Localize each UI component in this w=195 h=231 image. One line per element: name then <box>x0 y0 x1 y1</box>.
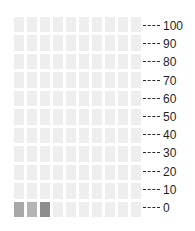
waffle-cell-empty <box>53 183 63 198</box>
waffle-cell-empty <box>92 54 102 69</box>
waffle-cell-empty <box>14 183 24 198</box>
waffle-cell-empty <box>131 91 141 106</box>
axis-tick-label: 0 <box>163 202 170 214</box>
waffle-cell-empty <box>105 202 115 217</box>
waffle-cell-empty <box>27 54 37 69</box>
waffle-cell-empty <box>66 183 76 198</box>
waffle-cell-empty <box>105 128 115 143</box>
waffle-cell-empty <box>118 54 128 69</box>
waffle-cell-empty <box>27 109 37 124</box>
waffle-cell-empty <box>92 35 102 50</box>
waffle-cell-empty <box>53 202 63 217</box>
waffle-cell-empty <box>118 165 128 180</box>
waffle-cell-empty <box>105 72 115 87</box>
waffle-cell-empty <box>131 202 141 217</box>
waffle-cell-empty <box>66 146 76 161</box>
waffle-cell-empty <box>40 35 50 50</box>
waffle-cell-empty <box>105 165 115 180</box>
waffle-cell-filled <box>40 202 50 217</box>
waffle-cell-empty <box>79 35 89 50</box>
waffle-cell-empty <box>53 35 63 50</box>
waffle-cell-empty <box>27 17 37 32</box>
waffle-cell-empty <box>79 165 89 180</box>
waffle-cell-empty <box>118 128 128 143</box>
waffle-cell-empty <box>27 165 37 180</box>
waffle-cell-empty <box>118 146 128 161</box>
axis-tick-label: 30 <box>163 147 176 159</box>
waffle-cell-empty <box>66 202 76 217</box>
waffle-cell-empty <box>105 17 115 32</box>
tick-dash-icon <box>143 25 160 27</box>
waffle-cell-empty <box>53 165 63 180</box>
axis-tick: 0 <box>143 201 170 215</box>
waffle-cell-empty <box>40 72 50 87</box>
waffle-cell-empty <box>53 128 63 143</box>
axis-tick-label: 100 <box>163 20 183 32</box>
waffle-cell-empty <box>53 72 63 87</box>
waffle-cell-filled <box>27 202 37 217</box>
waffle-cell-empty <box>79 72 89 87</box>
axis-tick-label: 80 <box>163 56 176 68</box>
waffle-cell-empty <box>53 54 63 69</box>
axis-tick-label: 90 <box>163 38 176 50</box>
waffle-cell-empty <box>66 54 76 69</box>
waffle-cell-empty <box>92 109 102 124</box>
waffle-cell-empty <box>14 54 24 69</box>
axis-tick: 10 <box>143 183 176 197</box>
waffle-cell-empty <box>79 146 89 161</box>
axis-tick: 40 <box>143 128 176 142</box>
waffle-cell-empty <box>27 128 37 143</box>
waffle-cell-empty <box>40 91 50 106</box>
waffle-cell-empty <box>27 183 37 198</box>
tick-dash-icon <box>143 43 160 45</box>
axis-tick-label: 10 <box>163 184 176 196</box>
waffle-cell-empty <box>118 109 128 124</box>
waffle-cell-empty <box>79 202 89 217</box>
waffle-cell-empty <box>118 202 128 217</box>
waffle-cell-empty <box>118 17 128 32</box>
waffle-cell-empty <box>105 109 115 124</box>
waffle-cell-empty <box>118 72 128 87</box>
tick-dash-icon <box>143 80 160 82</box>
waffle-cell-empty <box>105 54 115 69</box>
waffle-cell-empty <box>118 91 128 106</box>
waffle-cell-empty <box>53 17 63 32</box>
tick-dash-icon <box>143 207 160 209</box>
waffle-cell-empty <box>92 17 102 32</box>
waffle-cell-empty <box>40 183 50 198</box>
y-axis: 1009080706050403020100 <box>143 17 195 217</box>
waffle-cell-empty <box>131 35 141 50</box>
waffle-cell-empty <box>92 202 102 217</box>
waffle-cell-empty <box>131 109 141 124</box>
waffle-cell-empty <box>14 109 24 124</box>
waffle-cell-empty <box>79 54 89 69</box>
waffle-cell-filled <box>14 202 24 217</box>
waffle-cell-empty <box>92 183 102 198</box>
waffle-grid <box>14 17 141 217</box>
tick-dash-icon <box>143 61 160 63</box>
waffle-cell-empty <box>131 54 141 69</box>
waffle-cell-empty <box>92 146 102 161</box>
waffle-cell-empty <box>79 91 89 106</box>
axis-tick: 80 <box>143 55 176 69</box>
waffle-cell-empty <box>40 165 50 180</box>
waffle-cell-empty <box>92 128 102 143</box>
waffle-cell-empty <box>66 91 76 106</box>
axis-tick: 50 <box>143 110 176 124</box>
waffle-cell-empty <box>105 35 115 50</box>
waffle-cell-empty <box>66 72 76 87</box>
waffle-cell-empty <box>66 17 76 32</box>
waffle-cell-empty <box>14 35 24 50</box>
axis-tick: 30 <box>143 146 176 160</box>
axis-tick-label: 40 <box>163 129 176 141</box>
tick-dash-icon <box>143 152 160 154</box>
waffle-cell-empty <box>105 146 115 161</box>
waffle-cell-empty <box>79 17 89 32</box>
waffle-cell-empty <box>79 183 89 198</box>
waffle-cell-empty <box>66 109 76 124</box>
axis-tick: 90 <box>143 37 176 51</box>
waffle-cell-empty <box>66 165 76 180</box>
waffle-cell-empty <box>131 128 141 143</box>
waffle-cell-empty <box>14 146 24 161</box>
waffle-cell-empty <box>40 54 50 69</box>
